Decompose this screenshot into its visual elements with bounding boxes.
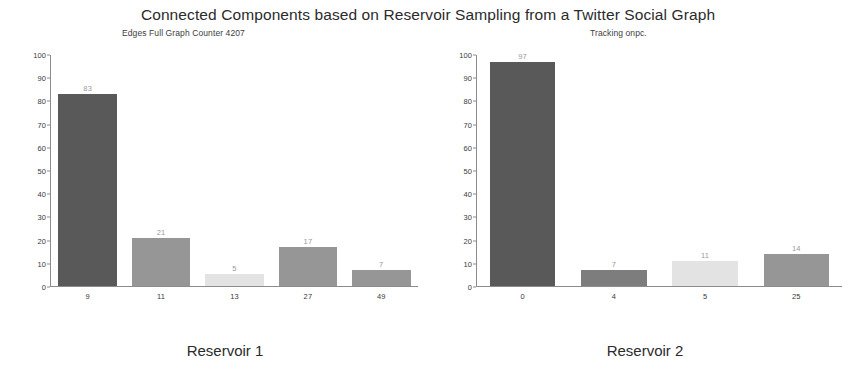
y-tick-label: 70 <box>450 120 472 129</box>
y-tick-label: 50 <box>450 167 472 176</box>
x-tick-label: 0 <box>490 292 556 301</box>
panel-caption-reservoir-2: Reservoir 2 <box>480 342 810 359</box>
y-tick-mark <box>473 124 476 125</box>
y-tick-label: 10 <box>450 259 472 268</box>
y-tick-mark <box>473 147 476 148</box>
y-tick-label: 20 <box>24 236 46 245</box>
bar-rect[interactable] <box>764 254 830 286</box>
bar-value-label: 11 <box>672 251 738 260</box>
y-tick-mark <box>47 287 50 288</box>
bar-rect[interactable] <box>279 247 338 286</box>
y-tick-label: 60 <box>450 143 472 152</box>
y-tick-label: 40 <box>450 190 472 199</box>
bar-rect[interactable] <box>581 270 647 286</box>
bar-item[interactable]: 970 <box>490 55 556 286</box>
y-tick-mark <box>473 55 476 56</box>
figure-title: Connected Components based on Reservoir … <box>0 6 856 24</box>
y-tick-mark <box>47 124 50 125</box>
bar-item[interactable]: 749 <box>352 55 411 286</box>
bar-item[interactable]: 1425 <box>764 55 830 286</box>
y-tick-label: 100 <box>450 51 472 60</box>
bar-value-label: 14 <box>764 244 830 253</box>
y-tick-mark <box>47 194 50 195</box>
x-tick-label: 9 <box>58 292 117 301</box>
bar-item[interactable]: 513 <box>205 55 264 286</box>
y-tick-mark <box>47 101 50 102</box>
plot-area-left: 0102030405060708090100 83921115131727749 <box>24 52 420 308</box>
y-tick-mark <box>47 263 50 264</box>
x-tick-label: 11 <box>132 292 191 301</box>
x-tick-label: 27 <box>279 292 338 301</box>
x-axis-line-right <box>476 286 842 287</box>
bar-item[interactable]: 2111 <box>132 55 191 286</box>
y-tick-label: 30 <box>24 213 46 222</box>
y-tick-label: 0 <box>450 283 472 292</box>
bar-rect[interactable] <box>58 94 117 286</box>
y-tick-mark <box>47 171 50 172</box>
bar-item[interactable]: 74 <box>581 55 647 286</box>
y-tick-label: 50 <box>24 167 46 176</box>
bar-value-label: 17 <box>279 237 338 246</box>
x-tick-label: 25 <box>764 292 830 301</box>
y-tick-mark <box>47 217 50 218</box>
x-axis-line-left <box>50 286 418 287</box>
bar-rect[interactable] <box>490 62 556 286</box>
y-tick-label: 80 <box>450 97 472 106</box>
bar-group-right: 970741151425 <box>477 55 842 286</box>
bar-rect[interactable] <box>205 274 264 286</box>
bar-value-label: 7 <box>352 260 411 269</box>
bar-rect[interactable] <box>352 270 411 286</box>
y-tick-mark <box>47 78 50 79</box>
bar-group-left: 83921115131727749 <box>51 55 418 286</box>
bar-item[interactable]: 1727 <box>279 55 338 286</box>
bar-item[interactable]: 115 <box>672 55 738 286</box>
bar-value-label: 5 <box>205 264 264 273</box>
y-tick-mark <box>473 78 476 79</box>
y-tick-mark <box>473 101 476 102</box>
y-tick-label: 20 <box>450 236 472 245</box>
y-tick-label: 60 <box>24 143 46 152</box>
bar-rect[interactable] <box>132 238 191 287</box>
y-tick-label: 90 <box>24 74 46 83</box>
plot-area-right: 0102030405060708090100 970741151425 <box>450 52 844 308</box>
x-tick-label: 13 <box>205 292 264 301</box>
y-tick-mark <box>47 147 50 148</box>
x-tick-label: 4 <box>581 292 647 301</box>
y-tick-mark <box>47 240 50 241</box>
y-tick-mark <box>473 171 476 172</box>
y-tick-label: 40 <box>24 190 46 199</box>
bar-value-label: 83 <box>58 84 117 93</box>
y-tick-label: 90 <box>450 74 472 83</box>
bar-rect[interactable] <box>672 261 738 286</box>
y-tick-label: 10 <box>24 259 46 268</box>
y-tick-mark <box>473 287 476 288</box>
x-tick-label: 49 <box>352 292 411 301</box>
bar-value-label: 21 <box>132 228 191 237</box>
bar-item[interactable]: 839 <box>58 55 117 286</box>
panel-subtitle-left: Edges Full Graph Counter 4207 <box>122 28 245 38</box>
y-tick-mark <box>473 263 476 264</box>
y-tick-label: 70 <box>24 120 46 129</box>
y-tick-label: 30 <box>450 213 472 222</box>
y-tick-label: 100 <box>24 51 46 60</box>
y-tick-mark <box>473 194 476 195</box>
y-tick-label: 80 <box>24 97 46 106</box>
y-tick-mark <box>47 55 50 56</box>
y-tick-label: 0 <box>24 283 46 292</box>
y-tick-mark <box>473 217 476 218</box>
bar-value-label: 97 <box>490 52 556 61</box>
x-tick-label: 5 <box>672 292 738 301</box>
panel-caption-reservoir-1: Reservoir 1 <box>60 342 390 359</box>
bar-value-label: 7 <box>581 260 647 269</box>
panel-subtitle-right: Tracking onpc. <box>590 28 647 38</box>
y-tick-mark <box>473 240 476 241</box>
